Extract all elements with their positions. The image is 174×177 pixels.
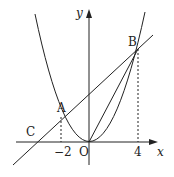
point-label-a: A <box>56 101 66 115</box>
y-axis-label: y <box>75 6 83 20</box>
tick-label-neg2: −2 <box>54 145 72 159</box>
point-label-b: B <box>128 35 137 49</box>
segment-ob <box>89 49 138 142</box>
y-axis-arrow-icon <box>86 9 92 18</box>
origin-label: O <box>79 145 89 159</box>
point-label-c: C <box>26 125 35 139</box>
parabola <box>35 12 145 142</box>
x-axis-label: x <box>157 145 164 159</box>
parabola-diagram: y x O −2 4 A B C <box>0 0 174 177</box>
tick-label-4: 4 <box>134 145 142 159</box>
